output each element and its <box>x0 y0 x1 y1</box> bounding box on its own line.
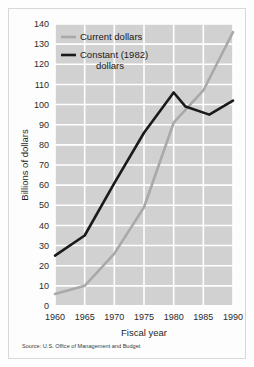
y-tick-label-20: 20 <box>39 261 49 271</box>
x-tick-label-1975: 1975 <box>134 312 154 322</box>
x-tick-label-1980: 1980 <box>164 312 184 322</box>
y-tick-label-30: 30 <box>39 241 49 251</box>
y-tick-label-140: 140 <box>34 19 49 29</box>
y-tick-label-70: 70 <box>39 160 49 170</box>
x-axis-title: Fiscal year <box>121 327 167 338</box>
y-tick-label-120: 120 <box>34 59 49 69</box>
x-tick-label-1985: 1985 <box>193 312 213 322</box>
y-tick-label-60: 60 <box>39 180 49 190</box>
chart-figure: 0102030405060708090100110120130140 19601… <box>0 0 254 367</box>
y-tick-label-40: 40 <box>39 221 49 231</box>
source-note: Source: U.S. Office of Management and Bu… <box>22 343 141 349</box>
y-tick-label-80: 80 <box>39 140 49 150</box>
y-tick-label-130: 130 <box>34 39 49 49</box>
line-chart: 0102030405060708090100110120130140 19601… <box>0 0 254 367</box>
x-tick-label-1965: 1965 <box>75 312 95 322</box>
y-axis-title: Billions of dollars <box>19 129 30 201</box>
x-tick-label-1990: 1990 <box>223 312 243 322</box>
x-tick-label-1970: 1970 <box>104 312 124 322</box>
legend-label-current-dollars: Current dollars <box>80 31 143 42</box>
y-tick-label-110: 110 <box>35 80 49 90</box>
y-axis-tick-labels: 0102030405060708090100110120130140 <box>34 19 49 311</box>
legend-label-constant-dollars-line2: dollars <box>96 60 124 71</box>
y-tick-label-0: 0 <box>44 301 49 311</box>
x-axis-tick-labels: 1960196519701975198019851990 <box>45 312 243 322</box>
legend-label-constant-dollars: Constant (1982) <box>80 49 148 60</box>
x-tick-label-1960: 1960 <box>45 312 65 322</box>
y-tick-label-90: 90 <box>39 120 49 130</box>
y-tick-label-10: 10 <box>39 281 49 291</box>
y-tick-label-100: 100 <box>34 100 49 110</box>
y-tick-label-50: 50 <box>39 200 49 210</box>
